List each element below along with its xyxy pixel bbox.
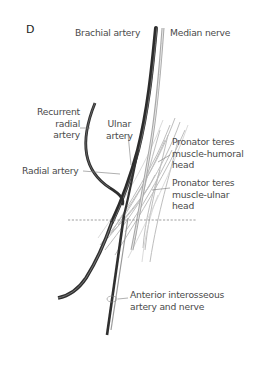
label-line: head: [172, 159, 244, 171]
label-line: Recurrent: [30, 106, 80, 118]
label-brachial-artery: Brachial artery: [75, 27, 140, 39]
label-line: muscle-ulnar: [172, 189, 234, 201]
label-line: Ulnar: [106, 118, 133, 130]
label-ulnar-artery: Ulnar artery: [106, 118, 133, 141]
label-line: Pronator teres: [172, 177, 234, 189]
label-median-nerve: Median nerve: [170, 27, 230, 39]
label-line: Anterior interosseous: [130, 289, 224, 301]
label-line: Pronator teres: [172, 136, 244, 148]
label-line: radial: [30, 118, 80, 130]
label-line: artery and nerve: [130, 301, 224, 313]
label-radial-artery: Radial artery: [22, 165, 79, 177]
label-anterior-interosseous: Anterior interosseous artery and nerve: [130, 289, 224, 312]
label-line: muscle-humoral: [172, 148, 244, 160]
label-line: artery: [30, 129, 80, 141]
radial-artery: [58, 222, 112, 298]
label-line: artery: [106, 130, 133, 142]
label-pronator-teres-ulnar: Pronator teres muscle-ulnar head: [172, 177, 234, 212]
label-pronator-teres-humoral: Pronator teres muscle-humoral head: [172, 136, 244, 171]
label-line: head: [172, 200, 234, 212]
panel-letter: D: [26, 24, 34, 36]
label-recurrent-radial-artery: Recurrent radial artery: [30, 106, 80, 141]
